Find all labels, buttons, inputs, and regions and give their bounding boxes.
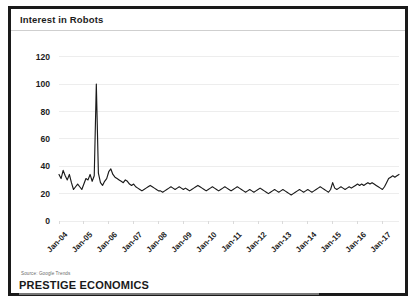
- footer-divider: [19, 293, 319, 295]
- x-axis-tick-label: Jan-15: [319, 230, 344, 255]
- y-axis-tick-label: 120: [36, 52, 51, 62]
- x-axis-tick-label: Jan-16: [344, 230, 369, 255]
- x-axis-tick-label: Jan-05: [70, 230, 95, 255]
- x-axis-tick-label: Jan-13: [269, 230, 294, 255]
- data-series-line: [59, 84, 399, 195]
- y-axis-labels-group: 020406080100120: [36, 52, 51, 226]
- x-axis-tick-label: Jan-14: [294, 230, 319, 255]
- chart-title: Interest in Robots: [11, 14, 103, 25]
- y-axis-tick-label: 40: [40, 161, 50, 171]
- x-axis-tick-label: Jan-04: [45, 230, 70, 255]
- x-axis-tick-label: Jan-08: [145, 230, 170, 255]
- source-note: Source: Google Trends: [21, 271, 70, 276]
- x-axis-tick-label: Jan-07: [120, 230, 145, 255]
- y-axis-tick-label: 60: [40, 134, 50, 144]
- y-axis-tick-label: 20: [40, 189, 50, 199]
- figure-frame: Interest in Robots 020406080100120 Jan-0…: [8, 6, 408, 296]
- figure-inner: Interest in Robots 020406080100120 Jan-0…: [11, 9, 405, 293]
- y-axis-tick-label: 0: [45, 216, 50, 226]
- plot-region: 020406080100120 Jan-04Jan-05Jan-06Jan-07…: [11, 31, 405, 259]
- brand-label: PRESTIGE ECONOMICS: [19, 279, 393, 292]
- chart-title-bar: Interest in Robots: [11, 9, 405, 31]
- x-axis-tick-label: Jan-09: [170, 230, 195, 255]
- x-axis-tick-label: Jan-11: [220, 230, 244, 254]
- x-axis-tick-label: Jan-06: [95, 230, 120, 255]
- x-axis-tick-label: Jan-10: [194, 230, 219, 255]
- gridlines-group: [59, 57, 399, 221]
- x-axis-tick-label: Jan-12: [244, 230, 269, 255]
- line-chart: 020406080100120 Jan-04Jan-05Jan-06Jan-07…: [11, 31, 405, 259]
- y-axis-tick-label: 100: [36, 79, 51, 89]
- footer-brand-bar: PRESTIGE ECONOMICS: [19, 279, 393, 295]
- x-axis-labels-group: Jan-04Jan-05Jan-06Jan-07Jan-08Jan-09Jan-…: [45, 230, 393, 255]
- x-axis-tick-label: Jan-17: [369, 230, 394, 255]
- y-axis-tick-label: 80: [40, 107, 50, 117]
